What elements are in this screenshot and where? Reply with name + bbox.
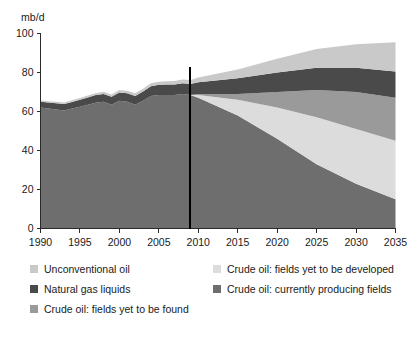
stacked-area-series-group bbox=[41, 42, 396, 228]
legend-item[interactable]: Crude oil: currently producing fields bbox=[213, 284, 392, 295]
y-tick-group: 020406080100 bbox=[16, 27, 41, 234]
x-tick-label: 2015 bbox=[226, 236, 250, 248]
y-tick-label: 100 bbox=[16, 27, 34, 39]
x-tick-label: 2025 bbox=[305, 236, 329, 248]
legend-color-swatch bbox=[30, 305, 38, 313]
x-tick-label: 2005 bbox=[147, 236, 171, 248]
legend-item[interactable]: Natural gas liquids bbox=[30, 284, 130, 295]
oil-supply-area-chart: mb/d 020406080100 1990199520002005201020… bbox=[0, 0, 413, 338]
plot-area: 020406080100 199019952000200520102015202… bbox=[0, 0, 413, 258]
legend-item[interactable]: Crude oil: fields yet to be developed bbox=[213, 264, 394, 275]
legend-label: Crude oil: currently producing fields bbox=[227, 284, 392, 295]
legend-item[interactable]: Unconventional oil bbox=[30, 264, 130, 275]
legend-color-swatch bbox=[213, 285, 221, 293]
y-tick-label: 80 bbox=[22, 66, 34, 78]
x-tick-label: 2000 bbox=[108, 236, 132, 248]
x-tick-label: 2010 bbox=[187, 236, 211, 248]
chart-legend: Unconventional oilNatural gas liquidsCru… bbox=[0, 258, 413, 328]
legend-label: Crude oil: fields yet to be developed bbox=[227, 264, 394, 275]
y-tick-label: 60 bbox=[22, 105, 34, 117]
x-tick-label: 2030 bbox=[344, 236, 368, 248]
legend-label: Natural gas liquids bbox=[44, 284, 130, 295]
x-tick-group: 1990199520002005201020152020202520302035 bbox=[29, 229, 408, 248]
legend-color-swatch bbox=[30, 265, 38, 273]
legend-color-swatch bbox=[30, 285, 38, 293]
y-tick-label: 40 bbox=[22, 144, 34, 156]
legend-label: Crude oil: fields yet to be found bbox=[44, 304, 189, 315]
x-tick-label: 1990 bbox=[29, 236, 53, 248]
x-tick-label: 2035 bbox=[384, 236, 408, 248]
x-tick-label: 1995 bbox=[68, 236, 92, 248]
x-tick-label: 2020 bbox=[265, 236, 289, 248]
legend-color-swatch bbox=[213, 265, 221, 273]
legend-label: Unconventional oil bbox=[44, 264, 130, 275]
y-tick-label: 20 bbox=[22, 183, 34, 195]
legend-item[interactable]: Crude oil: fields yet to be found bbox=[30, 304, 189, 315]
y-tick-label: 0 bbox=[28, 222, 34, 234]
